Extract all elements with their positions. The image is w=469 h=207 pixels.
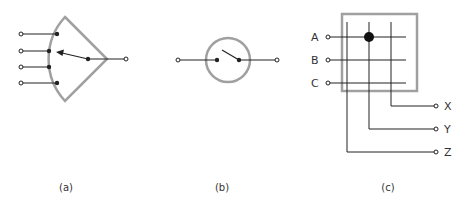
crossbar-input-terminals: [326, 35, 330, 85]
switch-left-terminal: [176, 58, 180, 62]
figure-c-crossbar: A B C X Y Z: [311, 14, 452, 159]
switch-diagrams: A B C X Y Z (a) (b) (c): [0, 0, 469, 207]
crossbar-output-terminals: [434, 104, 438, 154]
input-label-a: A: [311, 31, 319, 44]
closed-crosspoint: [364, 32, 374, 42]
caption-c: (c): [381, 182, 394, 193]
output-label-z: Z: [444, 146, 452, 159]
switch-left-contact: [215, 58, 219, 62]
input-label-b: B: [311, 54, 319, 67]
crossbar-output-lines: [347, 22, 436, 152]
crossbar-housing: [342, 14, 417, 91]
caption-a: (a): [59, 182, 73, 193]
caption-b: (b): [215, 182, 229, 193]
output-label-y: Y: [443, 123, 451, 136]
crossbar-input-lines: [328, 37, 406, 83]
arrow-head-icon: [56, 50, 64, 57]
selector-wiper: [62, 53, 88, 59]
selector-output-terminals: [19, 32, 23, 85]
switch-blade: [222, 50, 239, 60]
selector-input-terminal: [124, 57, 128, 61]
figure-a-selector-switch: [19, 17, 128, 101]
input-label-c: C: [311, 77, 319, 90]
output-label-x: X: [444, 100, 452, 113]
figure-b-onoff-switch: [176, 38, 279, 82]
switch-right-terminal: [275, 58, 279, 62]
